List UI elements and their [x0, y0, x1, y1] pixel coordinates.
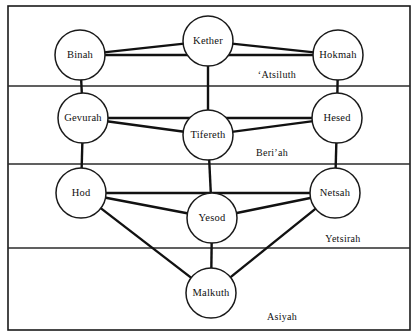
sefirah-hod[interactable]: Hod — [56, 168, 106, 218]
sefirah-tifereth[interactable]: Tifereth — [183, 110, 233, 160]
sefirah-hokmah[interactable]: Hokmah — [313, 30, 363, 80]
sefirah-yesod[interactable]: Yesod — [187, 193, 237, 243]
path-yesod-netsah — [236, 198, 312, 213]
sefirah-netsah[interactable]: Netsah — [310, 168, 360, 218]
path-hesed-netsah — [336, 142, 337, 169]
sefirah-binah[interactable]: Binah — [55, 30, 105, 80]
path-binah-gevurah — [81, 79, 82, 94]
path-kether-hokmah — [232, 44, 314, 53]
sefirah-label-binah: Binah — [67, 49, 94, 60]
sefirah-label-kether: Kether — [193, 35, 223, 46]
world-label-yetsirah: Yetsirah — [325, 233, 360, 244]
sefirah-label-netsah: Netsah — [320, 187, 351, 198]
path-binah-kether — [104, 44, 184, 53]
sefirah-label-hokmah: Hokmah — [319, 49, 357, 60]
sefirah-label-gevurah: Gevurah — [64, 112, 102, 123]
sefirah-label-hesed: Hesed — [323, 112, 351, 123]
path-gevurah-hod — [82, 142, 83, 169]
path-tifereth-hesed — [232, 121, 313, 132]
sefirah-hesed[interactable]: Hesed — [312, 93, 362, 143]
path-gevurah-tifereth — [107, 121, 184, 132]
world-label-atsiluth: ʻAtsiluth — [258, 69, 296, 80]
world-label-beriah: Beriʼah — [256, 147, 288, 158]
diagram-canvas: KetherBinahHokmahGevurahTiferethHesedHod… — [0, 0, 420, 336]
sefirah-label-malkuth: Malkuth — [193, 287, 231, 298]
sefirah-label-tifereth: Tifereth — [190, 129, 226, 140]
path-tifereth-yesod — [209, 159, 211, 194]
tree-of-life-diagram: KetherBinahHokmahGevurahTiferethHesedHod… — [0, 0, 420, 336]
sefirah-gevurah[interactable]: Gevurah — [58, 93, 108, 143]
sefirah-label-hod: Hod — [72, 187, 91, 198]
path-netsah-malkuth — [230, 208, 317, 278]
path-hod-malkuth — [100, 208, 192, 279]
sefirah-malkuth[interactable]: Malkuth — [186, 268, 236, 318]
path-hod-yesod — [105, 197, 189, 213]
sefirah-label-yesod: Yesod — [199, 212, 226, 223]
world-label-asiyah: Asiyah — [267, 311, 297, 322]
sefirah-kether[interactable]: Kether — [183, 16, 233, 66]
